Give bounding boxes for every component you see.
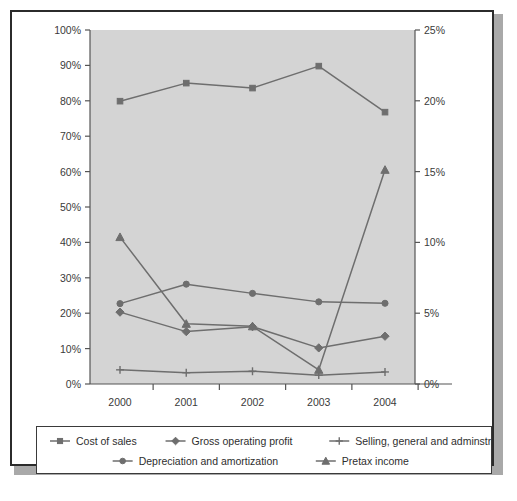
left-tick-label: 20%	[60, 307, 81, 319]
left-tick-label: 80%	[60, 95, 81, 107]
data-point-circle-marker	[316, 299, 322, 305]
data-point-square-marker	[316, 63, 322, 69]
legend-item-label: Depreciation and amortization	[139, 455, 279, 467]
data-point-circle-marker	[117, 301, 123, 307]
data-point-square-marker	[57, 438, 62, 443]
legend-content: Cost of salesGross operating profitSelli…	[37, 427, 491, 473]
page-canvas: 0%10%20%30%40%50%60%70%80%90%100% 0%5%10…	[0, 0, 517, 501]
right-tick-label: 0%	[424, 378, 439, 390]
figure-frame: 0%10%20%30%40%50%60%70%80%90%100% 0%5%10…	[10, 10, 494, 466]
x-tick-label: 2002	[241, 396, 265, 408]
legend-marker-square	[50, 438, 70, 443]
legend-item-label: Cost of sales	[76, 435, 137, 447]
x-axis-ticks: 20002001200220032004	[108, 384, 418, 408]
legend-marker-plus	[329, 437, 349, 444]
data-point-circle-marker	[382, 300, 388, 306]
left-tick-label: 30%	[60, 272, 81, 284]
data-point-circle-marker	[120, 458, 126, 464]
left-axis-ticks: 0%10%20%30%40%50%60%70%80%90%100%	[54, 24, 90, 390]
right-axis-ticks: 0%5%10%15%20%25%	[415, 24, 445, 390]
left-tick-label: 70%	[60, 130, 81, 142]
chart-legend: Cost of salesGross operating profitSelli…	[36, 426, 492, 474]
legend-item-label: Gross operating profit	[192, 435, 293, 447]
data-point-square-marker	[382, 109, 388, 115]
right-tick-label: 5%	[424, 307, 439, 319]
left-tick-label: 40%	[60, 236, 81, 248]
data-point-square-marker	[250, 85, 256, 91]
legend-item[interactable]: Gross operating profit	[166, 435, 293, 447]
right-tick-label: 10%	[424, 236, 445, 248]
left-tick-label: 0%	[66, 378, 81, 390]
data-point-diamond-marker	[172, 437, 180, 445]
legend-item-label: Selling, general and adminstrative expen…	[355, 435, 491, 447]
data-point-square-marker	[183, 80, 189, 86]
legend-item[interactable]: Pretax income	[316, 455, 409, 467]
legend-marker-diamond	[166, 437, 186, 445]
legend-marker-circle	[113, 458, 133, 464]
chart-plot-area: 0%10%20%30%40%50%60%70%80%90%100% 0%5%10…	[12, 12, 492, 464]
data-point-circle-marker	[183, 281, 189, 287]
left-tick-label: 50%	[60, 201, 81, 213]
x-tick-label: 2000	[108, 396, 132, 408]
x-tick-label: 2001	[175, 396, 199, 408]
left-tick-label: 100%	[54, 24, 81, 36]
data-point-square-marker	[117, 98, 123, 104]
x-tick-label: 2003	[307, 396, 331, 408]
legend-item[interactable]: Depreciation and amortization	[113, 455, 279, 467]
left-tick-label: 60%	[60, 166, 81, 178]
legend-item-label: Pretax income	[342, 455, 409, 467]
legend-item[interactable]: Selling, general and adminstrative expen…	[329, 435, 491, 447]
x-tick-label: 2004	[373, 396, 397, 408]
left-tick-label: 90%	[60, 59, 81, 71]
left-tick-label: 10%	[60, 343, 81, 355]
line-chart: 0%10%20%30%40%50%60%70%80%90%100% 0%5%10…	[12, 12, 492, 464]
right-tick-label: 20%	[424, 95, 445, 107]
right-tick-label: 15%	[424, 166, 445, 178]
data-point-plus-marker	[336, 437, 343, 444]
data-point-circle-marker	[249, 290, 255, 296]
legend-marker-triangle	[316, 457, 336, 464]
right-tick-label: 25%	[424, 24, 445, 36]
legend-item[interactable]: Cost of sales	[50, 435, 137, 447]
